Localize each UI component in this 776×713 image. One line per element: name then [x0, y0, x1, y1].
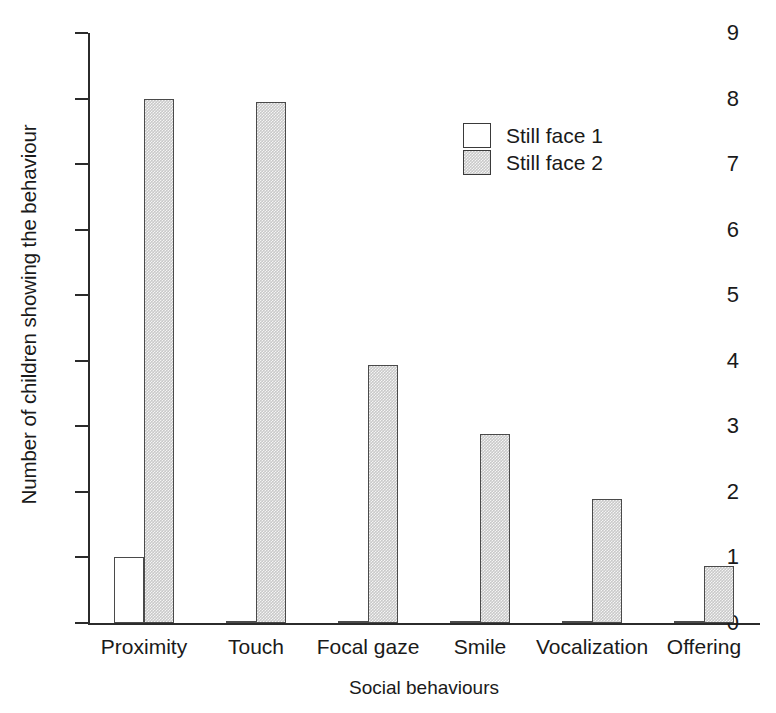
legend-item: Still face 2	[463, 149, 603, 176]
bar-vocalization-series-1	[562, 621, 592, 623]
plot-area: 0123456789 ProximityTouchFocal gazeSmile…	[88, 33, 760, 625]
legend-swatch-still-face-1	[463, 123, 491, 148]
y-axis-tick	[75, 425, 88, 427]
x-axis-label-touch: Touch	[200, 634, 312, 660]
y-axis-tick-label: 4	[699, 350, 739, 372]
y-axis-tick	[75, 229, 88, 231]
legend-item: Still face 1	[463, 122, 603, 149]
x-axis-label-smile: Smile	[424, 634, 536, 660]
y-axis-tick-label: 5	[699, 284, 739, 306]
x-axis-label-focal-gaze: Focal gaze	[312, 634, 424, 660]
y-axis-tick	[75, 98, 88, 100]
y-axis-title: Number of children showing the behaviour	[12, 2, 46, 627]
x-axis-label-proximity: Proximity	[88, 634, 200, 660]
y-axis-tick-label: 7	[699, 153, 739, 175]
legend-swatch-still-face-2	[463, 150, 491, 175]
bar-offering-series-1	[674, 621, 704, 623]
x-axis-title: Social behaviours	[88, 676, 760, 700]
x-axis-line	[88, 623, 760, 625]
bar-proximity-series-2	[144, 99, 174, 623]
bar-focal-gaze-series-1	[338, 621, 368, 623]
y-axis-tick-label: 9	[699, 22, 739, 44]
y-axis-tick-label: 2	[699, 481, 739, 503]
bar-smile-series-1	[450, 621, 480, 623]
bar-chart-figure: Number of children showing the behaviour…	[0, 0, 776, 713]
y-axis-tick	[75, 556, 88, 558]
bar-vocalization-series-2	[592, 499, 622, 623]
bar-offering-series-2	[704, 566, 734, 623]
bar-proximity-series-1	[114, 557, 144, 623]
y-axis-tick	[75, 32, 88, 34]
legend: Still face 1 Still face 2	[463, 122, 603, 176]
legend-label-still-face-2: Still face 2	[506, 152, 603, 173]
y-axis-tick-label: 6	[699, 219, 739, 241]
y-axis-tick	[75, 622, 88, 624]
y-axis-tick	[75, 491, 88, 493]
y-axis-tick	[75, 360, 88, 362]
y-axis-line	[88, 33, 90, 625]
y-axis-tick	[75, 163, 88, 165]
y-axis-tick	[75, 294, 88, 296]
x-axis-label-offering: Offering	[648, 634, 760, 660]
bar-smile-series-2	[480, 434, 510, 623]
legend-label-still-face-1: Still face 1	[506, 125, 603, 146]
y-axis-tick-label: 3	[699, 415, 739, 437]
bar-touch-series-1	[226, 621, 256, 623]
bar-focal-gaze-series-2	[368, 365, 398, 623]
x-axis-label-vocalization: Vocalization	[536, 634, 648, 660]
bar-touch-series-2	[256, 102, 286, 623]
y-axis-tick-label: 8	[699, 88, 739, 110]
